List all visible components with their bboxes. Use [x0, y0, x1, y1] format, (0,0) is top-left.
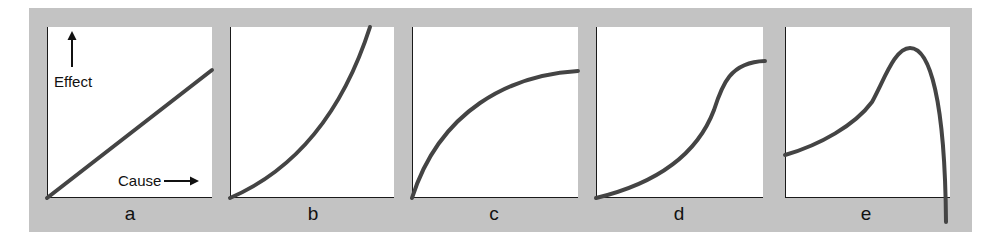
- cause-effect-figure: Effect Cause a b c d e: [0, 0, 999, 244]
- effect-arrow-icon: [68, 31, 77, 67]
- x-axis-label: Cause: [118, 172, 161, 190]
- curve-c-saturating: [412, 71, 578, 198]
- panel-label-d: d: [659, 202, 699, 226]
- panel-label-a: a: [110, 202, 150, 226]
- panel-label-b: b: [293, 202, 333, 226]
- y-axis-label: Effect: [54, 73, 92, 91]
- cause-arrow-icon: [164, 177, 199, 186]
- curve-b-accelerating: [230, 27, 370, 198]
- panel-label-c: c: [474, 202, 514, 226]
- curve-e-rise-collapse: [785, 48, 946, 222]
- curve-d-sigmoid: [596, 61, 765, 198]
- panel-label-e: e: [846, 202, 886, 226]
